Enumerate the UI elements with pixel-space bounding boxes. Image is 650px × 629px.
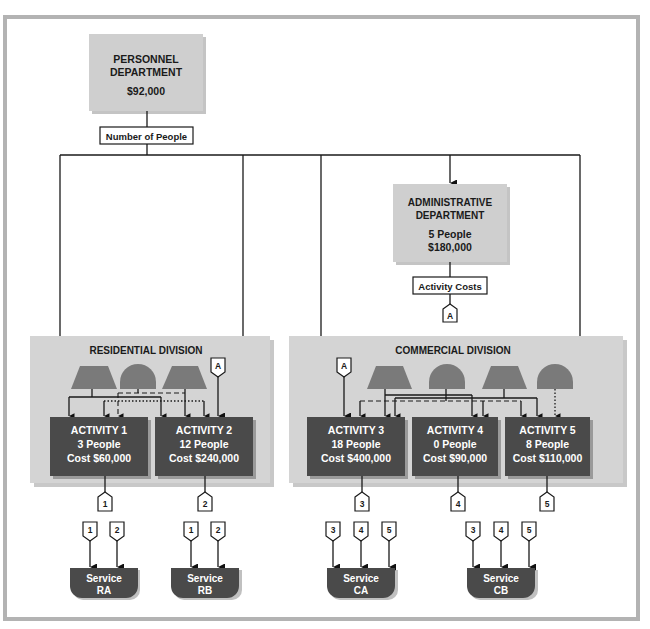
personnel-title-line1: PERSONNEL	[113, 53, 179, 65]
residential-connector-a-tag: A	[211, 358, 225, 377]
activity-3: ACTIVITY 3 18 People Cost $400,000	[307, 417, 408, 479]
svg-text:1: 1	[88, 525, 93, 535]
svg-text:4: 4	[499, 525, 504, 535]
svg-text:ACTIVITY 2: ACTIVITY 2	[176, 424, 233, 436]
svg-text:ACTIVITY 4: ACTIVITY 4	[427, 424, 484, 436]
svg-text:5: 5	[527, 525, 532, 535]
commercial-division-title: COMMERCIAL DIVISION	[395, 345, 510, 356]
svg-text:RA: RA	[97, 585, 111, 596]
svg-text:1: 1	[189, 525, 194, 535]
svg-text:8 People: 8 People	[526, 438, 569, 450]
svg-text:Cost $90,000: Cost $90,000	[423, 452, 487, 464]
svg-text:2: 2	[203, 499, 208, 509]
svg-text:2: 2	[216, 525, 221, 535]
svg-text:3: 3	[360, 499, 365, 509]
admin-people: 5 People	[428, 228, 471, 240]
svg-text:4: 4	[359, 525, 364, 535]
svg-text:12 People: 12 People	[179, 438, 228, 450]
svg-text:18 People: 18 People	[331, 438, 380, 450]
activity-4: ACTIVITY 4 0 People Cost $90,000	[412, 417, 501, 479]
number-of-people-label: Number of People	[106, 131, 187, 142]
admin-cost: $180,000	[428, 241, 472, 253]
svg-text:A: A	[341, 361, 347, 371]
cost-allocation-diagram: PERSONNEL DEPARTMENT $92,000 Number of P…	[0, 0, 650, 629]
service-cb: 3 4 5 Service CB	[466, 522, 538, 600]
svg-text:2: 2	[115, 525, 120, 535]
svg-text:3: 3	[331, 525, 336, 535]
service-rb: 1 2 Service RB	[171, 522, 242, 600]
activity-costs-driver: Activity Costs	[413, 277, 487, 294]
svg-text:5: 5	[545, 499, 550, 509]
svg-text:1: 1	[103, 499, 108, 509]
svg-text:CB: CB	[494, 585, 508, 596]
svg-text:4: 4	[456, 499, 461, 509]
personnel-title-line2: DEPARTMENT	[110, 66, 183, 78]
svg-text:Cost $110,000: Cost $110,000	[513, 452, 583, 464]
admin-title-line1: ADMINISTRATIVE	[408, 197, 493, 208]
svg-text:ACTIVITY 3: ACTIVITY 3	[328, 424, 385, 436]
svg-text:Service: Service	[483, 573, 519, 584]
svg-text:Service: Service	[86, 573, 122, 584]
service-ca: 3 4 5 Service CA	[326, 522, 398, 600]
svg-text:3: 3	[471, 525, 476, 535]
activity-5: ACTIVITY 5 8 People Cost $110,000	[505, 417, 593, 479]
activity-costs-label: Activity Costs	[418, 281, 481, 292]
svg-text:ACTIVITY 5: ACTIVITY 5	[519, 424, 576, 436]
residential-division-title: RESIDENTIAL DIVISION	[89, 345, 202, 356]
activity-2: ACTIVITY 2 12 People Cost $240,000	[155, 417, 256, 479]
svg-text:Service: Service	[187, 573, 223, 584]
administrative-department: ADMINISTRATIVE DEPARTMENT 5 People $180,…	[393, 184, 510, 265]
commercial-connector-a-tag: A	[337, 358, 351, 377]
svg-text:A: A	[215, 361, 221, 371]
admin-title-line2: DEPARTMENT	[416, 210, 485, 221]
activity-1: ACTIVITY 1 3 People Cost $60,000	[50, 417, 151, 479]
svg-text:3 People: 3 People	[77, 438, 120, 450]
service-ra: 1 2 Service RA	[70, 522, 140, 600]
svg-text:A: A	[447, 311, 453, 321]
svg-text:Cost $240,000: Cost $240,000	[169, 452, 239, 464]
svg-text:Cost $400,000: Cost $400,000	[321, 452, 391, 464]
admin-connector-a-tag: A	[443, 304, 457, 322]
svg-text:ACTIVITY 1: ACTIVITY 1	[71, 424, 128, 436]
number-of-people-driver: Number of People	[100, 127, 193, 144]
svg-text:0 People: 0 People	[433, 438, 476, 450]
svg-text:Cost $60,000: Cost $60,000	[67, 452, 131, 464]
personnel-department: PERSONNEL DEPARTMENT $92,000	[89, 34, 206, 114]
personnel-cost: $92,000	[127, 85, 165, 97]
svg-text:Service: Service	[343, 573, 379, 584]
svg-text:CA: CA	[354, 585, 368, 596]
svg-text:RB: RB	[198, 585, 212, 596]
svg-text:5: 5	[387, 525, 392, 535]
